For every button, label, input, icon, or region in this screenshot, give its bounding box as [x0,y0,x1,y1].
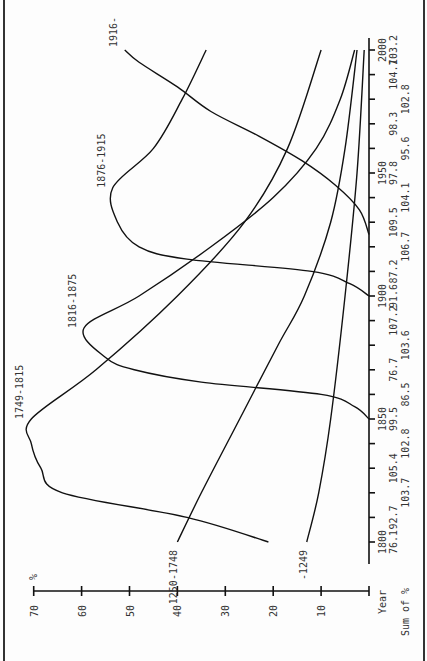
series-label: 1749-1815 [14,365,25,419]
sum-axis-title: Sum of % [400,588,411,636]
year-tick-label: 2000 [377,38,388,62]
series-curve-1249 [307,50,364,542]
sum-of-percent-value: 109.5 [388,207,399,237]
percent-tick-label: 60 [77,605,88,617]
sum-of-percent-value: 99.5 [388,407,399,431]
percent-axis-title: % [28,574,39,580]
year-tick-label: 1800 [377,530,388,554]
percent-tick-label: 70 [29,605,40,617]
sum-of-percent-value: 104.1 [400,183,411,213]
sum-of-percent-value: 102.8 [400,84,411,114]
percent-tick-label: 10 [316,605,327,617]
sum-of-percent-value: 76.1 [388,530,399,554]
percent-tick-label: 50 [125,605,136,617]
sum-of-percent-value: 87.2 [388,259,399,283]
sum-of-percent-value: 102.8 [400,429,411,459]
sum-of-percent-value: 105.4 [388,453,399,483]
percent-tick-label: 40 [172,605,183,617]
series-curve-1876-1915 [110,50,369,296]
axes: 1800185019001950200076.192.7103.7105.410… [28,35,411,636]
series-label: -1249 [298,550,309,580]
year-tick-label: 1900 [377,284,388,308]
series-label: 1250-1748 [168,550,179,604]
sum-of-percent-value: 98.3 [388,112,399,136]
series-label: 1876-1915 [96,134,107,188]
percent-tick-label: 30 [220,605,231,617]
sum-of-percent-value: 91.6 [388,284,399,308]
sum-of-percent-value: 103.2 [388,35,399,65]
sum-of-percent-value: 92.7 [388,505,399,529]
sum-of-percent-value: 86.5 [400,382,411,406]
percent-tick-label: 20 [268,605,279,617]
sum-of-percent-value: 95.6 [400,136,411,160]
series-label: 1816-1875 [67,274,78,328]
sum-of-percent-value: 103.7 [400,478,411,508]
year-axis-title: Year [377,590,388,614]
series-label: 1916- [108,17,119,47]
chart-frame: 1800185019001950200076.192.7103.7105.410… [0,0,427,661]
sum-of-percent-value: 107.2 [388,306,399,336]
sum-of-percent-value: 103.6 [400,330,411,360]
sum-of-percent-value: 76.7 [388,358,399,382]
year-tick-label: 1950 [377,161,388,185]
series-curve-1816-1875 [83,50,369,419]
sum-of-percent-value: 106.7 [400,232,411,262]
sum-of-percent-value: 97.8 [388,161,399,185]
series-curve-1916 [125,50,369,235]
year-tick-label: 1850 [377,407,388,431]
rotated-line-chart: 1800185019001950200076.192.7103.7105.410… [0,0,427,661]
